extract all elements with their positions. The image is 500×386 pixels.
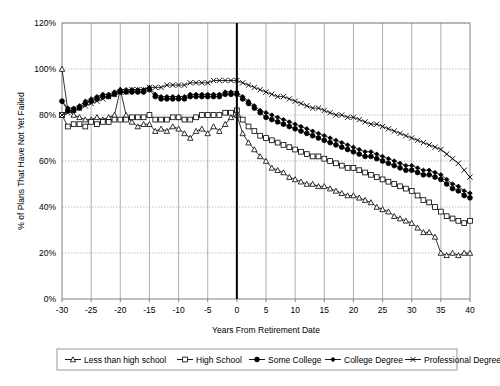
data-point-square-open bbox=[403, 186, 408, 191]
data-point-square-open bbox=[392, 182, 397, 187]
data-point-square-open bbox=[374, 175, 379, 180]
data-point-circle-filled bbox=[322, 138, 327, 143]
data-point-circle-filled bbox=[345, 147, 350, 152]
x-tick-label: 40 bbox=[465, 305, 475, 315]
data-point-circle-filled bbox=[369, 154, 374, 159]
chart-container: 0%20%40%60%80%100%120% -30-25-20-15-10-5… bbox=[0, 0, 500, 386]
data-point-square-open bbox=[194, 115, 199, 120]
data-point-square-open bbox=[130, 115, 135, 120]
data-point-circle-filled bbox=[438, 177, 443, 182]
data-point-square-open bbox=[217, 113, 222, 118]
data-point-circle-filled bbox=[339, 145, 344, 150]
data-point-square-open bbox=[170, 115, 175, 120]
data-point-square-open bbox=[322, 156, 327, 161]
data-point-square-open bbox=[264, 136, 269, 141]
data-point-square-open bbox=[141, 115, 146, 120]
data-point-circle-filled bbox=[275, 120, 280, 125]
legend-item-label: High School bbox=[196, 355, 242, 365]
data-point-circle-filled bbox=[304, 131, 309, 136]
x-axis-title: Years From Retirement Date bbox=[212, 325, 320, 335]
line-chart: 0%20%40%60%80%100%120% -30-25-20-15-10-5… bbox=[0, 0, 500, 386]
data-point-circle-filled bbox=[255, 357, 260, 362]
data-point-square-open bbox=[269, 138, 274, 143]
y-tick-label: 40% bbox=[39, 202, 56, 212]
data-point-square-open bbox=[456, 218, 461, 223]
data-point-circle-filled bbox=[433, 175, 438, 180]
x-tick-label: 10 bbox=[290, 305, 300, 315]
data-point-square-open bbox=[409, 189, 414, 194]
data-point-square-open bbox=[65, 124, 70, 129]
legend-item-label: Professional Degree bbox=[424, 355, 500, 365]
x-tick-label: -10 bbox=[172, 305, 185, 315]
data-point-circle-filled bbox=[468, 195, 473, 200]
x-tick-label: -5 bbox=[204, 305, 212, 315]
data-point-square-open bbox=[334, 161, 339, 166]
legend-item-label: Some College bbox=[268, 355, 322, 365]
data-point-circle-filled bbox=[264, 115, 269, 120]
data-point-square-open bbox=[165, 117, 170, 122]
data-point-circle-filled bbox=[392, 163, 397, 168]
data-point-square-open bbox=[95, 122, 100, 127]
y-tick-label: 60% bbox=[39, 156, 56, 166]
x-tick-label: 35 bbox=[436, 305, 446, 315]
data-point-square-open bbox=[77, 122, 82, 127]
data-point-circle-filled bbox=[269, 117, 274, 122]
y-tick-label: 80% bbox=[39, 110, 56, 120]
x-tick-label: 15 bbox=[320, 305, 330, 315]
data-point-circle-filled bbox=[357, 152, 362, 157]
data-point-circle-filled bbox=[444, 182, 449, 187]
data-point-square-open bbox=[159, 117, 164, 122]
data-point-square-open bbox=[450, 216, 455, 221]
data-point-square-open bbox=[211, 113, 216, 118]
data-point-square-open bbox=[153, 117, 158, 122]
x-tick-label: -20 bbox=[114, 305, 127, 315]
data-point-square-open bbox=[444, 214, 449, 219]
data-point-square-open bbox=[240, 117, 245, 122]
data-point-square-open bbox=[415, 193, 420, 198]
data-point-circle-filled bbox=[386, 161, 391, 166]
y-axis-title: % of Plans That Have Not Yet Failed bbox=[16, 92, 26, 230]
y-tick-label: 20% bbox=[39, 248, 56, 258]
legend-item-label: Less than high school bbox=[84, 355, 166, 365]
data-point-square-open bbox=[468, 218, 473, 223]
data-point-square-open bbox=[183, 357, 188, 362]
x-tick-label: -15 bbox=[143, 305, 156, 315]
x-tick-label: 5 bbox=[264, 305, 269, 315]
data-point-square-open bbox=[199, 113, 204, 118]
x-axis-tick-labels: -30-25-20-15-10-50510152025303540 bbox=[56, 305, 475, 315]
data-point-square-open bbox=[427, 200, 432, 205]
data-point-circle-filled bbox=[427, 172, 432, 177]
data-point-square-open bbox=[351, 166, 356, 171]
data-point-square-open bbox=[304, 152, 309, 157]
data-point-square-open bbox=[252, 129, 257, 134]
data-point-square-open bbox=[182, 117, 187, 122]
data-point-circle-filled bbox=[415, 170, 420, 175]
data-point-square-open bbox=[275, 140, 280, 145]
data-point-square-open bbox=[258, 133, 263, 138]
data-point-square-open bbox=[83, 124, 88, 129]
data-point-square-open bbox=[71, 122, 76, 127]
data-point-square-open bbox=[100, 120, 105, 125]
data-point-circle-filled bbox=[293, 126, 298, 131]
data-point-circle-filled bbox=[310, 133, 315, 138]
data-point-square-open bbox=[328, 159, 333, 164]
data-point-square-open bbox=[386, 179, 391, 184]
data-point-square-open bbox=[135, 115, 140, 120]
data-point-circle-filled bbox=[351, 149, 356, 154]
data-point-square-open bbox=[287, 145, 292, 150]
data-point-square-open bbox=[438, 209, 443, 214]
data-point-square-open bbox=[357, 168, 362, 173]
data-point-square-open bbox=[345, 166, 350, 171]
data-point-square-open bbox=[112, 117, 117, 122]
data-point-circle-filled bbox=[281, 122, 286, 127]
data-point-square-open bbox=[369, 172, 374, 177]
x-tick-label: 25 bbox=[378, 305, 388, 315]
x-tick-label: -30 bbox=[56, 305, 69, 315]
data-point-square-open bbox=[246, 124, 251, 129]
x-tick-label: 0 bbox=[234, 305, 239, 315]
data-point-square-open bbox=[281, 143, 286, 148]
y-tick-label: 100% bbox=[34, 64, 56, 74]
data-point-square-open bbox=[316, 154, 321, 159]
data-point-circle-filled bbox=[328, 140, 333, 145]
chart-legend: Less than high schoolHigh SchoolSome Col… bbox=[57, 349, 500, 370]
